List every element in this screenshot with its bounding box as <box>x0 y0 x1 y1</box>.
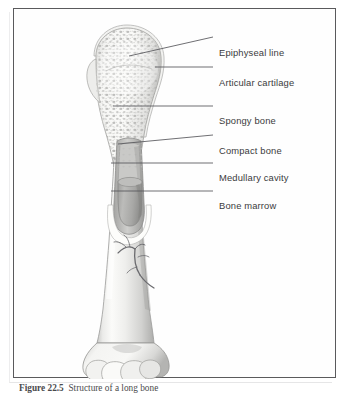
figure-caption: Figure 22.5 Structure of a long bone <box>19 383 319 394</box>
long-bone-illustration <box>14 9 337 379</box>
label-medullary-cavity: Medullary cavity <box>219 172 289 183</box>
condyle-far-lateral <box>140 360 161 379</box>
label-bone-marrow: Bone marrow <box>219 200 276 211</box>
caption-text: Structure of a long bone <box>68 383 158 393</box>
label-compact-bone: Compact bone <box>219 145 282 156</box>
label-epiphyseal-line: Epiphyseal line <box>219 47 284 58</box>
label-articular-cartilage: Articular cartilage <box>219 77 294 88</box>
label-spongy-bone: Spongy bone <box>219 115 276 126</box>
distal-epiphysis <box>83 343 169 379</box>
figure-root: Epiphyseal line Articular cartilage Spon… <box>0 0 347 394</box>
caption-label: Figure 22.5 <box>19 383 64 393</box>
figure-frame: Epiphyseal line Articular cartilage Spon… <box>13 8 336 378</box>
